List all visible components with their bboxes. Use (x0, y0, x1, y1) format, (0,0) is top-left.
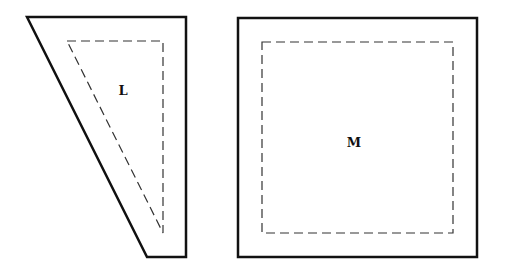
shape-l-label: L (118, 83, 127, 98)
shape-m: M (238, 18, 477, 257)
shape-l-outer-outline (27, 17, 186, 257)
shape-l-inner-dashed (67, 41, 163, 233)
shape-m-label: M (347, 135, 361, 150)
shape-l: L (27, 17, 186, 257)
diagram: L M (0, 0, 510, 267)
